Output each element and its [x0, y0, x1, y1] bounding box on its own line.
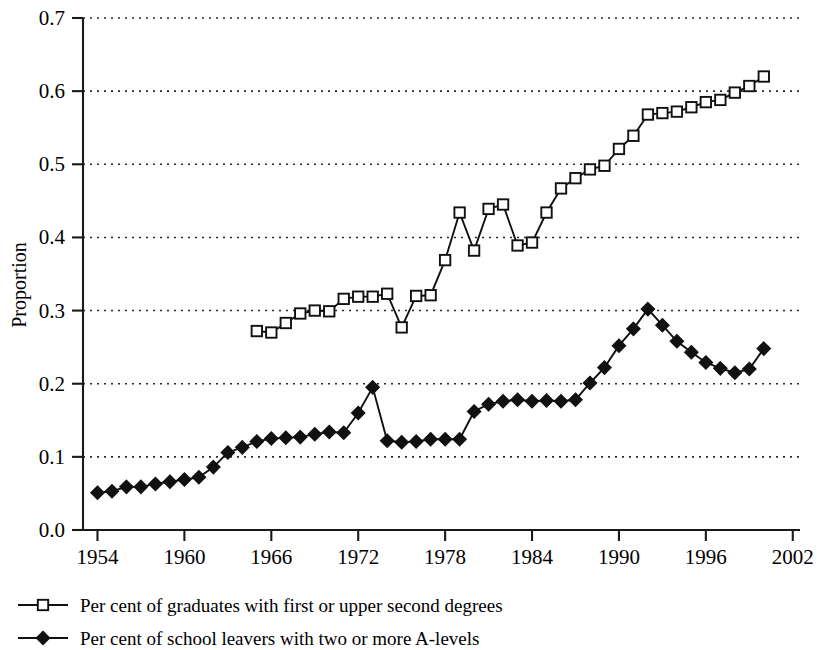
data-point-marker: [498, 199, 508, 209]
data-point-marker: [511, 393, 524, 406]
data-point-marker: [555, 395, 568, 408]
data-point-marker: [482, 398, 495, 411]
data-point-marker: [395, 436, 408, 449]
x-tick-label: 1984: [511, 545, 554, 569]
x-tick-label: 1972: [337, 545, 379, 569]
data-point-marker: [730, 87, 740, 97]
data-point-marker: [439, 433, 452, 446]
data-point-marker: [714, 362, 727, 375]
y-tick-label: 0.5: [39, 152, 65, 176]
data-point-marker: [106, 485, 119, 498]
y-tick-label: 0.2: [39, 372, 65, 396]
x-tick-label: 1996: [685, 545, 727, 569]
data-point-marker: [353, 291, 363, 301]
data-point-marker: [192, 471, 205, 484]
x-tick-label: 1954: [76, 545, 119, 569]
data-point-marker: [424, 433, 437, 446]
data-point-marker: [469, 245, 479, 255]
gridlines: [83, 18, 800, 457]
legend-item: Per cent of graduates with first or uppe…: [18, 595, 503, 616]
data-point-marker: [468, 405, 481, 418]
data-point-marker: [759, 71, 769, 81]
data-point-marker: [672, 106, 682, 116]
data-point-marker: [367, 291, 377, 301]
y-axis-title: Proportion: [8, 242, 31, 328]
data-point-marker: [744, 81, 754, 91]
data-point-marker: [323, 426, 336, 439]
data-point-marker: [570, 173, 580, 183]
data-point-marker: [453, 433, 466, 446]
y-tick-label: 0.0: [39, 518, 65, 542]
data-point-marker: [279, 431, 292, 444]
data-point-marker: [410, 435, 423, 448]
data-point-marker: [541, 207, 551, 217]
data-point-marker: [686, 102, 696, 112]
data-point-marker: [135, 480, 148, 493]
data-point-marker: [120, 480, 133, 493]
data-point-marker: [699, 356, 712, 369]
y-tick-label: 0.6: [39, 79, 65, 103]
data-point-marker: [252, 326, 262, 336]
data-point-marker: [281, 318, 291, 328]
data-point-marker: [310, 305, 320, 315]
data-point-marker: [352, 407, 365, 420]
x-axis: 195419601966197219781984199019962002: [76, 530, 813, 569]
data-point-marker: [250, 435, 263, 448]
data-point-marker: [440, 255, 450, 265]
data-point-marker: [178, 473, 191, 486]
data-point-marker: [425, 290, 435, 300]
data-point-marker: [585, 164, 595, 174]
data-point-marker: [715, 95, 725, 105]
data-point-marker: [91, 486, 104, 499]
data-point-marker: [599, 161, 609, 171]
data-point-marker: [382, 289, 392, 299]
x-tick-label: 2002: [772, 545, 814, 569]
data-point-marker: [497, 395, 510, 408]
data-point-marker: [527, 237, 537, 247]
data-point-marker: [339, 294, 349, 304]
data-point-marker: [657, 108, 667, 118]
x-tick-label: 1978: [424, 545, 466, 569]
data-point-marker: [757, 342, 770, 355]
series-graduates: [252, 71, 769, 337]
y-tick-label: 0.1: [39, 445, 65, 469]
data-point-marker: [643, 109, 653, 119]
series-school-leavers: [91, 303, 770, 499]
x-tick-label: 1990: [598, 545, 640, 569]
data-point-marker: [381, 434, 394, 447]
series-line: [257, 77, 764, 333]
x-tick-label: 1966: [250, 545, 292, 569]
data-point-marker: [308, 428, 321, 441]
chart-figure: 0.00.10.20.30.40.50.60.7 195419601966197…: [0, 0, 817, 650]
data-point-marker: [526, 395, 539, 408]
data-point-marker: [265, 432, 278, 445]
data-point-marker: [454, 207, 464, 217]
data-point-marker: [295, 308, 305, 318]
data-point-marker: [266, 327, 276, 337]
data-point-marker: [236, 441, 249, 454]
x-tick-label: 1960: [163, 545, 205, 569]
y-tick-label: 0.4: [39, 225, 66, 249]
data-point-marker: [294, 431, 307, 444]
data-point-marker: [38, 600, 48, 610]
data-point-marker: [396, 322, 406, 332]
y-axis: 0.00.10.20.30.40.50.60.7: [39, 6, 83, 542]
data-point-marker: [324, 306, 334, 316]
data-point-marker: [614, 144, 624, 154]
chart-legend: Per cent of graduates with first or uppe…: [18, 595, 503, 649]
data-point-marker: [540, 394, 553, 407]
y-tick-label: 0.3: [39, 299, 65, 323]
data-point-marker: [512, 240, 522, 250]
data-point-marker: [411, 291, 421, 301]
series-line: [97, 309, 763, 493]
data-point-marker: [743, 363, 756, 376]
y-axis-title-group: Proportion: [8, 242, 31, 328]
data-point-marker: [701, 97, 711, 107]
data-point-marker: [728, 366, 741, 379]
legend-item: Per cent of school leavers with two or m…: [18, 628, 479, 649]
y-tick-label: 0.7: [39, 6, 65, 30]
data-point-marker: [164, 475, 177, 488]
data-point-marker: [628, 131, 638, 141]
chart-svg: 0.00.10.20.30.40.50.60.7 195419601966197…: [0, 0, 817, 650]
data-point-marker: [556, 183, 566, 193]
